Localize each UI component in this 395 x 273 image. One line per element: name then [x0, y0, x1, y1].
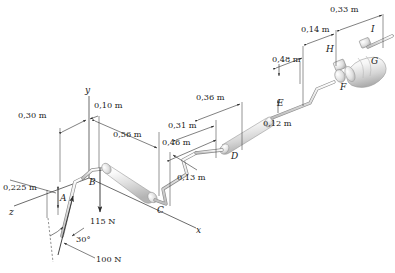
flywheel-G: [343, 56, 386, 87]
point-label-G: G: [371, 56, 378, 66]
point-label-D: D: [230, 151, 238, 161]
dim-048-label: 0,48 m: [272, 54, 301, 64]
angle-30-label: 30°: [76, 234, 91, 244]
point-label-E: E: [276, 98, 284, 108]
dim-036-line: [198, 104, 240, 120]
dim-033-label: 0,33 m: [330, 4, 359, 14]
dim-014-line: [307, 34, 334, 44]
crankshaft-diagram: y z x: [0, 0, 395, 273]
dim-030-label: 0,30 m: [18, 110, 47, 120]
dimension-013: 0,13 m: [173, 155, 206, 182]
point-label-H: H: [325, 44, 334, 54]
point-label-I: I: [370, 24, 375, 34]
dim-036-label: 0,36 m: [196, 92, 225, 102]
output-shaft-I-hl: [368, 36, 392, 47]
point-label-B: B: [88, 177, 96, 187]
force-group: 115 N 100 N 30°: [48, 168, 121, 264]
crankshaft-assembly: [62, 36, 392, 236]
dim-031-label: 0,31 m: [168, 120, 197, 130]
z-axis-label: z: [8, 207, 14, 217]
dim-013-label: 0,13 m: [177, 172, 206, 182]
dimension-012: 0,12 m: [263, 62, 300, 128]
dim-046-label: 0,46 m: [162, 137, 191, 147]
point-label-F: F: [339, 82, 347, 92]
bearing-cylinder-BC: [100, 162, 159, 205]
dim-010-line: [90, 116, 98, 119]
point-label-C: C: [157, 205, 164, 215]
angle-reference-line: [48, 218, 53, 262]
dim-030-line: [62, 120, 86, 132]
dimension-030: 0,30 m: [18, 110, 86, 182]
force-115-label: 115 N: [90, 216, 115, 226]
force-100-label: 100 N: [96, 254, 121, 264]
y-axis-label: y: [84, 85, 91, 95]
x-axis-label: x: [196, 225, 201, 235]
dimension-033: 0,33 m: [330, 4, 383, 48]
dim-033-line: [340, 15, 382, 30]
dim-010-label: 0,10 m: [94, 100, 123, 110]
dim-056-label: 0,56 m: [113, 129, 142, 139]
force-100-leader: [64, 243, 95, 258]
point-label-A: A: [59, 193, 67, 203]
dim-014-label: 0,14 m: [301, 24, 330, 34]
dim-0225-label: 0,225 m: [3, 182, 37, 192]
dimension-048: 0,48 m: [272, 46, 303, 106]
dim-012-label: 0,12 m: [263, 118, 292, 128]
